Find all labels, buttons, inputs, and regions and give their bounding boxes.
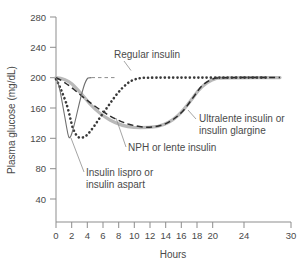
label-regular-insulin: Regular insulin [114, 49, 180, 60]
x-tick-label-24: 24 [239, 230, 250, 241]
x-tick-label-2: 2 [69, 230, 74, 241]
y-tick-labels: 280 240 200 160 120 80 40 [30, 12, 46, 205]
y-axis-title: Plasma glucose (mg/dL) [6, 66, 17, 174]
leader-ultralente-glargine [188, 110, 196, 119]
label-lispro-line1: Insulin lispro or [86, 167, 154, 178]
x-tick-label-20: 20 [207, 230, 218, 241]
x-tick-labels: 0 2 4 6 8 10 12 14 16 18 20 24 30 [53, 230, 296, 241]
label-ultralente-line1: Ultralente insulin or [199, 113, 285, 124]
x-tick-label-6: 6 [100, 230, 105, 241]
label-lispro-line2: insulin aspart [86, 179, 145, 190]
x-tick-label-14: 14 [160, 230, 171, 241]
x-tick-label-30: 30 [286, 230, 297, 241]
leader-regular-insulin [124, 61, 131, 71]
x-tick-label-0: 0 [53, 230, 58, 241]
y-tick-label-120: 120 [30, 133, 46, 144]
leader-nph-lente [116, 118, 126, 147]
x-tick-label-4: 4 [85, 230, 90, 241]
y-tick-label-40: 40 [35, 194, 46, 205]
annotation-ultralente-glargine: Ultralente insulin or insulin glargine [188, 110, 285, 136]
y-tick-label-200: 200 [30, 72, 46, 83]
plasma-glucose-insulin-chart: 280 240 200 160 120 80 40 0 2 [0, 0, 301, 274]
y-tick-label-160: 160 [30, 103, 46, 114]
x-axis-title: Hours [160, 249, 187, 260]
leader-lispro-aspart [71, 138, 84, 172]
x-tick-label-18: 18 [192, 230, 203, 241]
annotation-regular-insulin: Regular insulin [114, 49, 180, 71]
y-tick-label-80: 80 [35, 163, 46, 174]
y-tick-label-240: 240 [30, 42, 46, 53]
label-nph-lente: NPH or lente insulin [128, 142, 216, 153]
chart-page: 280 240 200 160 120 80 40 0 2 [0, 0, 301, 274]
y-tick-label-280: 280 [30, 12, 46, 23]
x-tick-label-12: 12 [145, 230, 156, 241]
x-tick-label-8: 8 [116, 230, 121, 241]
x-tick-label-16: 16 [176, 230, 187, 241]
x-tick-marks [56, 222, 291, 228]
x-tick-label-10: 10 [129, 230, 140, 241]
y-tick-marks [50, 17, 56, 199]
label-ultralente-line2: insulin glargine [199, 125, 266, 136]
